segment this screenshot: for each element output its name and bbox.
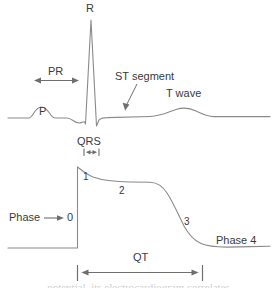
- qrs-width-bracket: [84, 149, 99, 157]
- qt-arrow-head-left: [82, 270, 89, 276]
- st-arrow-head: [123, 103, 130, 111]
- ecg-label-t-wave: T wave: [166, 88, 201, 99]
- ap-label-phase-4: Phase 4: [216, 235, 256, 246]
- phase-zero-arrow: [44, 215, 64, 221]
- pr-arrow-head-right: [72, 78, 79, 84]
- ecg-label-qrs: QRS: [77, 136, 101, 147]
- figure-caption: potential, its electrocardiogram correla…: [0, 281, 277, 288]
- st-arrow-shaft: [127, 84, 138, 105]
- qt-interval-bracket: [78, 265, 203, 281]
- ap-label-phase-0: 0: [67, 212, 73, 223]
- ap-label-phase-3: 3: [184, 217, 190, 227]
- qt-arrow-head-right: [192, 270, 199, 276]
- ap-label-phase-1: 1: [83, 172, 89, 182]
- pr-arrow-head-left: [34, 78, 41, 84]
- qrs-bracket-head-right: [93, 150, 98, 154]
- ap-label-phase-2: 2: [119, 186, 125, 196]
- ecg-label-r-wave: R: [86, 3, 94, 14]
- ap-label-phase-word: Phase: [9, 212, 40, 223]
- qrs-bracket-head-left: [86, 150, 91, 154]
- ecg-action-potential-figure: 0) --> R P QRS PR ST segment T wave Phas…: [0, 0, 277, 288]
- ecg-label-pr-interval: PR: [48, 66, 63, 77]
- phase-arrow-head: [57, 215, 64, 221]
- ap-label-qt-interval: QT: [133, 252, 148, 263]
- ecg-label-p-wave: P: [39, 106, 46, 117]
- ecg-label-st-segment: ST segment: [115, 71, 174, 82]
- st-segment-pointer-arrow: [123, 84, 137, 111]
- pr-interval-arrow: [34, 78, 79, 84]
